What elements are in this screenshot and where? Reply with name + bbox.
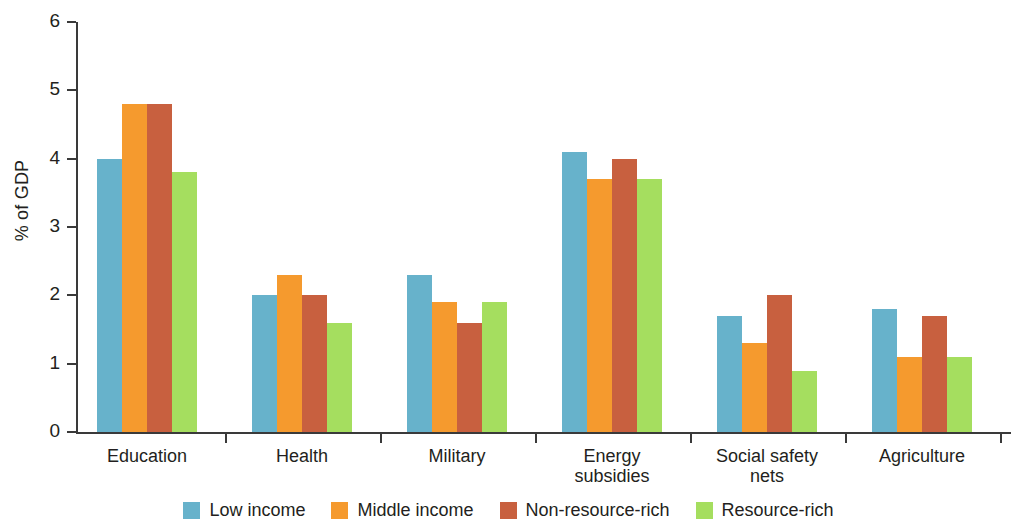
plot-area: 0123456 EducationHealthMilitaryEnergy su… [76,22,1011,432]
y-tick-mark [67,89,76,91]
bar-group [252,22,352,432]
x-axis-line [76,432,1011,434]
y-tick-label: 1 [28,353,60,372]
y-tick-label: 0 [28,421,60,440]
legend-item[interactable]: Low income [183,500,305,521]
bar [742,343,767,432]
x-category-label: Social safety nets [692,446,842,486]
bar-group [407,22,507,432]
bar-group [562,22,662,432]
bar [637,179,662,432]
legend-label: Middle income [357,500,473,521]
bar [922,316,947,432]
chart-figure: % of GDP 0123456 EducationHealthMilitary… [0,0,1017,530]
bar-group [872,22,972,432]
y-tick-label: 2 [28,284,60,303]
bar [897,357,922,432]
y-tick-mark [67,21,76,23]
y-tick-mark [67,363,76,365]
x-tick-mark [380,433,382,443]
chart-legend: Low incomeMiddle incomeNon-resource-rich… [0,500,1017,521]
x-tick-mark [845,433,847,443]
y-tick-label: 5 [28,79,60,98]
bar [97,159,122,432]
legend-swatch-icon [183,502,200,519]
bar [767,295,792,432]
bar [172,172,197,432]
bar [562,152,587,432]
bar-group [717,22,817,432]
x-tick-mark [690,433,692,443]
y-tick-label: 4 [28,148,60,167]
x-category-label: Agriculture [847,446,997,466]
legend-label: Resource-rich [722,500,834,521]
bar [457,323,482,432]
bar [122,104,147,432]
legend-swatch-icon [331,502,348,519]
x-tick-mark [1000,433,1002,443]
bar [302,295,327,432]
legend-label: Non-resource-rich [526,500,670,521]
y-tick-mark [67,226,76,228]
y-tick-mark [67,431,76,433]
y-tick-label: 6 [28,11,60,30]
bar [587,179,612,432]
bar [147,104,172,432]
bar [872,309,897,432]
bar [252,295,277,432]
y-tick-label: 3 [28,216,60,235]
bar-group [97,22,197,432]
bar [792,371,817,433]
legend-label: Low income [209,500,305,521]
legend-swatch-icon [696,502,713,519]
bar [277,275,302,432]
bar [947,357,972,432]
legend-item[interactable]: Resource-rich [696,500,834,521]
x-tick-mark [535,433,537,443]
legend-item[interactable]: Non-resource-rich [500,500,670,521]
y-axis-line [76,22,78,433]
bar [407,275,432,432]
legend-item[interactable]: Middle income [331,500,473,521]
bar [612,159,637,432]
bar [327,323,352,432]
legend-swatch-icon [500,502,517,519]
bar [482,302,507,432]
y-tick-mark [67,294,76,296]
x-category-label: Health [227,446,377,466]
x-category-label: Military [382,446,532,466]
x-category-label: Education [72,446,222,466]
y-tick-mark [67,158,76,160]
bar [717,316,742,432]
x-tick-mark [225,433,227,443]
bar [432,302,457,432]
x-category-label: Energy subsidies [537,446,687,486]
